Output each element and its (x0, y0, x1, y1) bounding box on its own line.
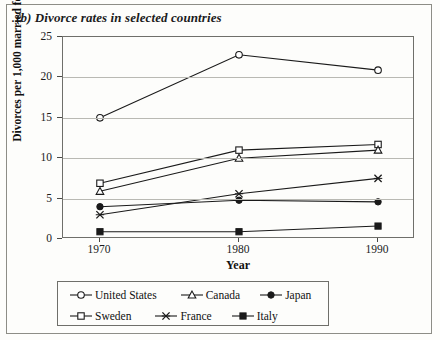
legend-row: United StatesCanadaJapan (58, 284, 328, 305)
legend-marker-filled-square (230, 309, 256, 323)
legend-label: Canada (205, 289, 240, 301)
data-point-open-circle (236, 51, 243, 58)
data-point-open-square (97, 180, 103, 186)
data-point-cross (162, 312, 170, 319)
x-tick-mark (99, 238, 100, 242)
legend-marker-wrap (258, 288, 284, 302)
y-tick-label: 10 (22, 151, 52, 163)
legend-label: United States (94, 289, 157, 301)
data-point-open-circle (375, 67, 382, 74)
data-point-filled-square (240, 312, 246, 318)
y-gridline (63, 199, 413, 200)
series-united-states (97, 51, 382, 121)
legend-marker-wrap (68, 309, 94, 323)
legend-marker-open-triangle (179, 288, 205, 302)
data-point-open-circle (78, 291, 85, 298)
y-tick-label: 20 (22, 70, 52, 82)
legend-item-italy[interactable]: Italy (230, 305, 278, 326)
chart-legend: United StatesCanadaJapan SwedenFranceIta… (57, 281, 329, 326)
y-gridline (63, 158, 413, 159)
series-italy (97, 223, 381, 235)
legend-marker-wrap (153, 309, 179, 323)
series-canada (96, 146, 382, 194)
y-tick-label: 0 (22, 232, 52, 244)
data-point-filled-circle (97, 203, 103, 209)
x-tick-mark (377, 238, 378, 242)
y-tick-mark (57, 36, 62, 37)
data-point-cross (235, 190, 243, 197)
legend-label: Japan (284, 289, 311, 301)
x-tick-label: 1970 (87, 243, 110, 255)
legend-marker-open-square (68, 309, 94, 323)
series-layer (63, 37, 415, 239)
data-point-open-square (78, 312, 84, 318)
chart-page: (b) Divorce rates in selected countries … (0, 0, 440, 340)
x-tick-mark (238, 238, 239, 242)
series-sweden (97, 141, 381, 186)
y-gridline (63, 118, 413, 119)
legend-marker-wrap (68, 288, 94, 302)
y-tick-label: 5 (22, 192, 52, 204)
x-tick-label: 1990 (366, 243, 389, 255)
legend-item-japan[interactable]: Japan (258, 284, 311, 305)
data-point-filled-circle (268, 291, 274, 297)
data-point-open-square (236, 147, 242, 153)
data-point-cross (96, 211, 104, 218)
y-gridline (63, 77, 413, 78)
legend-item-france[interactable]: France (153, 305, 211, 326)
legend-item-canada[interactable]: Canada (179, 284, 240, 305)
y-tick-mark (57, 76, 62, 77)
figure-title: (b) Divorce rates in selected countries (16, 10, 222, 26)
x-axis-title: Year (62, 258, 414, 273)
legend-marker-filled-circle (258, 288, 284, 302)
legend-item-sweden[interactable]: Sweden (68, 305, 131, 326)
plot-area (62, 36, 414, 238)
legend-marker-wrap (230, 309, 256, 323)
legend-marker-cross (153, 309, 179, 323)
data-point-filled-square (375, 223, 381, 229)
legend-row: SwedenFranceItaly (58, 305, 328, 326)
y-tick-mark (57, 157, 62, 158)
y-tick-mark (57, 117, 62, 118)
legend-label: Italy (256, 310, 278, 322)
legend-marker-open-circle (68, 288, 94, 302)
legend-label: Sweden (94, 310, 131, 322)
data-point-filled-square (236, 229, 242, 235)
y-tick-mark (57, 238, 62, 239)
y-tick-label: 25 (22, 30, 52, 42)
x-tick-label: 1980 (227, 243, 250, 255)
data-point-cross (374, 175, 382, 182)
y-tick-label: 15 (22, 111, 52, 123)
legend-label: France (179, 310, 211, 322)
data-point-filled-square (97, 229, 103, 235)
legend-item-united-states[interactable]: United States (68, 284, 157, 305)
legend-marker-wrap (179, 288, 205, 302)
y-tick-mark (57, 198, 62, 199)
